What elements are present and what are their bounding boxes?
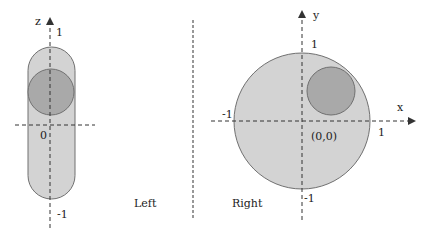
tick-label-bottom: -1 <box>57 208 68 221</box>
left-caption: Left <box>134 197 157 210</box>
y-axis-label: y <box>312 9 320 22</box>
inner-circle <box>307 67 355 115</box>
origin-label: (0,0) <box>311 130 337 143</box>
z-axis-label: z <box>35 15 41 28</box>
diagram-canvas: z 1 0 -1 Left y x 1 -1 -1 1 (0,0) Right <box>0 0 432 236</box>
tick-label-origin: 0 <box>40 129 47 142</box>
tick-label-x-right: 1 <box>378 126 385 139</box>
tick-label-y-bottom: -1 <box>304 192 315 205</box>
tick-label-top: 1 <box>56 26 63 39</box>
inner-sphere <box>28 69 74 115</box>
right-diagram: y x 1 -1 -1 1 (0,0) Right <box>211 9 414 220</box>
right-caption: Right <box>232 197 263 210</box>
left-diagram: z 1 0 -1 Left <box>15 15 157 228</box>
tick-label-y-top: 1 <box>311 38 318 51</box>
tick-label-x-left: -1 <box>222 108 233 121</box>
x-axis-label: x <box>397 101 404 114</box>
